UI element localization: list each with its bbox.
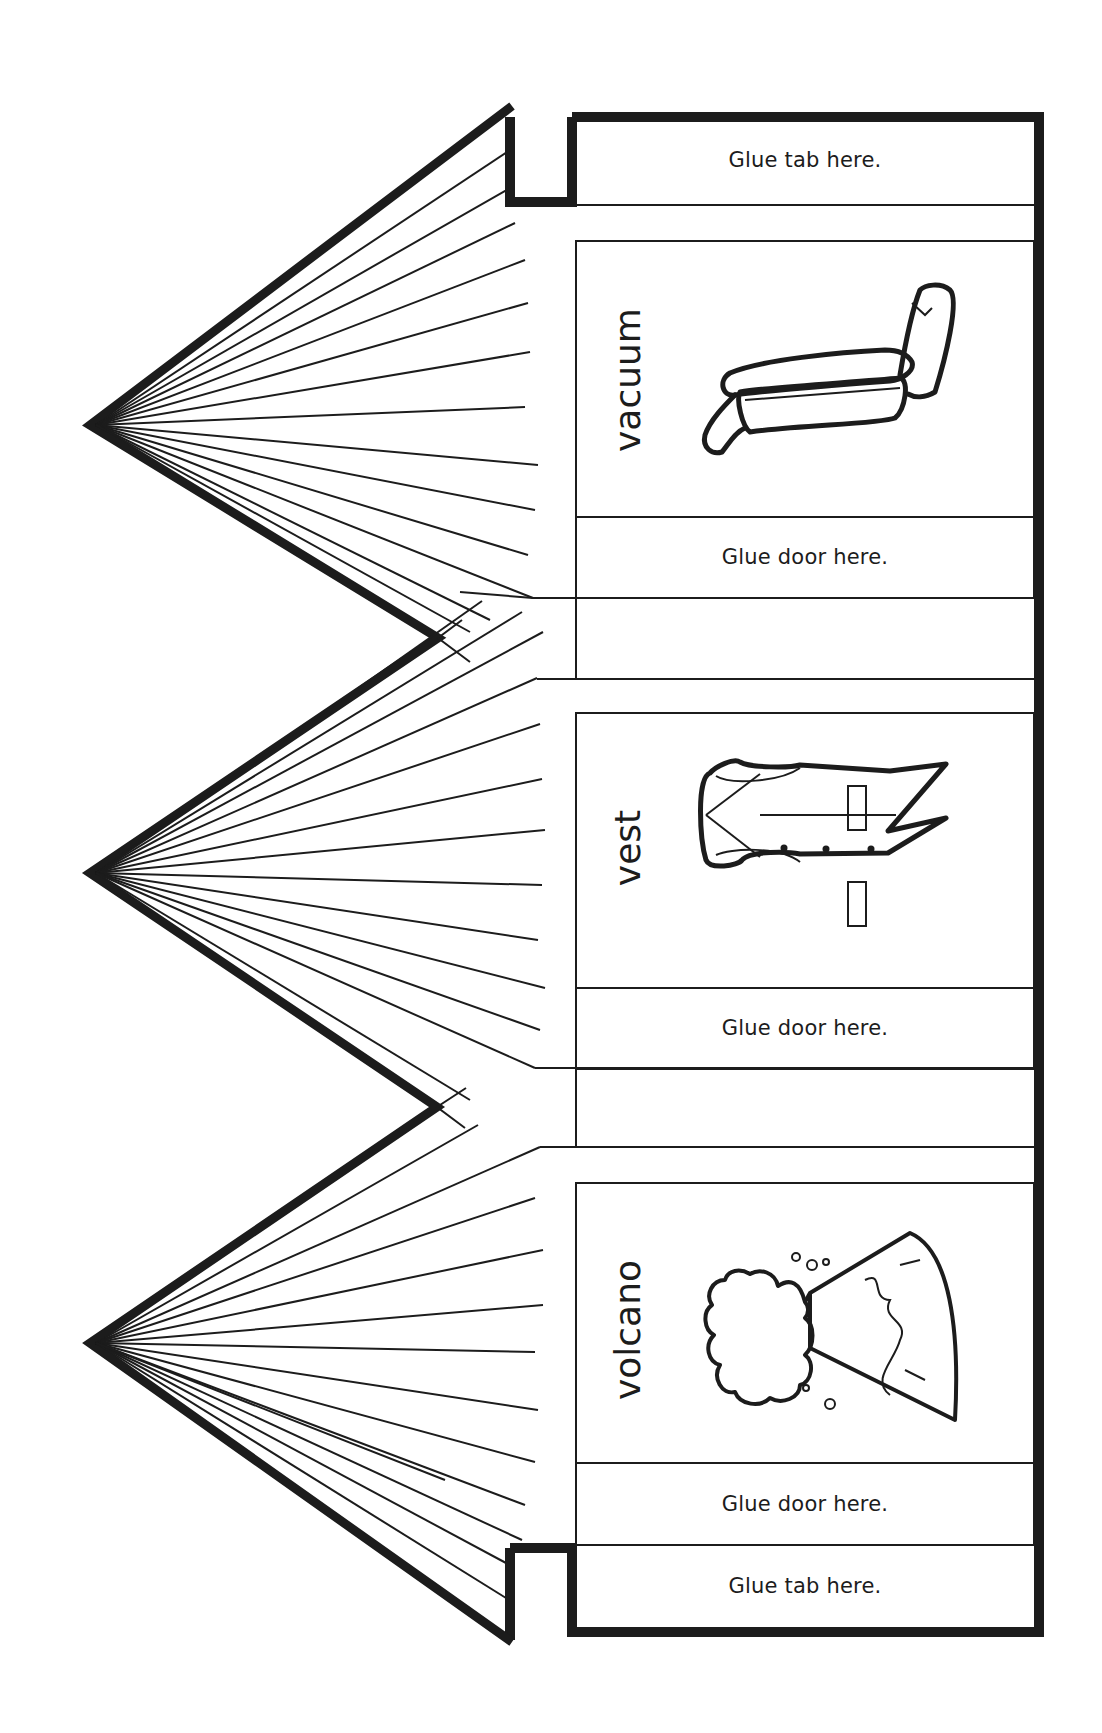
- glue-door-label-3: Glue door here.: [576, 1492, 1034, 1516]
- notch-inner-lines: [437, 592, 533, 1128]
- glue-tab-label-bottom: Glue tab here.: [576, 1574, 1034, 1598]
- word-volcano: volcano: [607, 1260, 648, 1400]
- glue-tab-label-top: Glue tab here.: [576, 148, 1034, 172]
- vest-detail-lines: [706, 768, 896, 926]
- outer-cut-line: [510, 117, 1039, 1640]
- vacuum-icon: [704, 285, 953, 453]
- word-vest: vest: [607, 810, 648, 886]
- word-vacuum: vacuum: [607, 308, 648, 452]
- glue-door-label-2: Glue door here.: [576, 1016, 1034, 1040]
- craft-template-drawing: [0, 0, 1102, 1733]
- glue-door-label-1: Glue door here.: [576, 545, 1034, 569]
- door-rays-icon: [96, 1125, 543, 1598]
